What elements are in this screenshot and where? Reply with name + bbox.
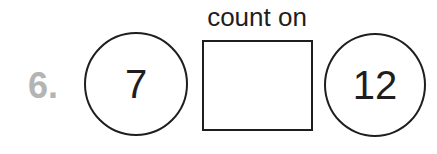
start-value-circle: 7 xyxy=(84,32,188,136)
problem-number: 6. xyxy=(28,66,58,106)
start-value: 7 xyxy=(125,62,147,107)
end-value-circle: 12 xyxy=(324,33,426,137)
end-value: 12 xyxy=(353,63,398,108)
answer-box[interactable] xyxy=(202,40,313,131)
instruction-label: count on xyxy=(162,2,352,32)
